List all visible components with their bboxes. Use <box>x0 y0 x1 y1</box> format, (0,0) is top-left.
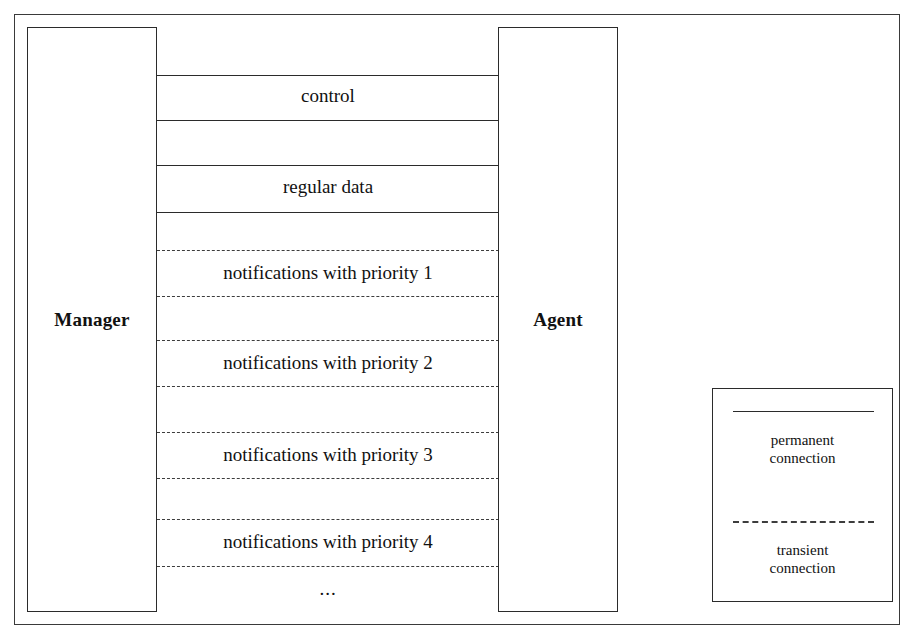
legend-permanent-caption-line2: connection <box>713 449 892 467</box>
notification-priority-2-label: notifications with priority 2 <box>157 352 499 374</box>
notification-priority-1-line-bottom <box>157 296 499 297</box>
legend-transient-caption-line2: connection <box>713 559 892 577</box>
diagram-canvas: Manager Agent control regular data notif… <box>0 0 917 638</box>
notification-priority-4-line-top <box>157 519 499 520</box>
notification-priority-3-line-top <box>157 432 499 433</box>
agent-box: Agent <box>498 27 618 612</box>
control-channel-line-bottom <box>157 120 499 121</box>
notification-priority-4-line-bottom <box>157 566 499 567</box>
legend-transient-line-sample <box>733 521 874 523</box>
control-channel-label: control <box>157 85 499 107</box>
legend-permanent-caption: permanent connection <box>713 431 892 468</box>
regular-data-channel-line-top <box>157 165 499 166</box>
regular-data-channel-label: regular data <box>157 176 499 198</box>
legend-transient-caption-line1: transient <box>713 541 892 559</box>
regular-data-channel-line-bottom <box>157 212 499 213</box>
notification-priority-4-label: notifications with priority 4 <box>157 531 499 553</box>
notification-priority-3-line-bottom <box>157 478 499 479</box>
notification-priority-2-line-top <box>157 340 499 341</box>
continuation-ellipsis: ... <box>157 578 499 600</box>
manager-box: Manager <box>27 27 157 612</box>
agent-label: Agent <box>533 309 583 331</box>
legend-permanent-caption-line1: permanent <box>713 431 892 449</box>
legend-permanent-line-sample <box>733 411 874 412</box>
notification-priority-1-line-top <box>157 250 499 251</box>
manager-label: Manager <box>54 309 129 331</box>
control-channel-line-top <box>157 75 499 76</box>
legend-transient-caption: transient connection <box>713 541 892 578</box>
notification-priority-3-label: notifications with priority 3 <box>157 444 499 466</box>
notification-priority-1-label: notifications with priority 1 <box>157 262 499 284</box>
notification-priority-2-line-bottom <box>157 386 499 387</box>
legend-box: permanent connection transient connectio… <box>712 388 893 602</box>
